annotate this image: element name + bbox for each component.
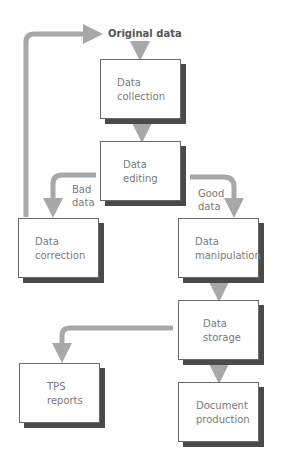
node-label: Data correction — [35, 235, 85, 263]
node-document-production: Document production — [178, 382, 259, 442]
node-data-manipulation: Data manipulation — [178, 218, 259, 278]
original-data-label: Original data — [108, 28, 182, 39]
node-label: Data manipulation — [195, 235, 261, 263]
node-data-storage: Data storage — [178, 300, 259, 360]
bad-data-label: Bad data — [72, 183, 95, 209]
node-label: Document production — [196, 399, 250, 427]
node-data-editing: Data editing — [100, 141, 181, 201]
arrow-storage-tps — [62, 328, 173, 353]
node-data-collection: Data collection — [100, 59, 181, 119]
node-label: Data storage — [203, 317, 241, 345]
node-label: TPS reports — [47, 380, 83, 408]
node-label: Data collection — [117, 76, 165, 104]
node-data-correction: Data correction — [18, 218, 99, 278]
good-data-label: Good data — [198, 187, 224, 213]
node-label: Data editing — [123, 158, 158, 186]
node-tps-reports: TPS reports — [19, 363, 100, 423]
